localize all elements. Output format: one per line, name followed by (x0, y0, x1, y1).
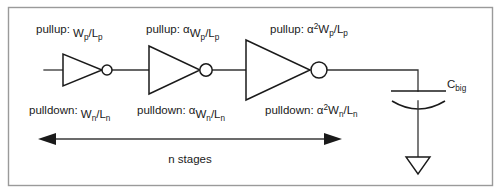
inverter-triangle-1 (63, 54, 102, 86)
load-capacitor (391, 91, 446, 174)
inverter-bubble-1 (102, 65, 112, 75)
inverter-bubble-3 (311, 62, 327, 78)
inverter-bubble-2 (200, 64, 212, 76)
inverter-stage-2 (149, 46, 212, 94)
pulldown-label-stage-3: pulldown: α2Wn/Ln (265, 103, 358, 119)
load-capacitor-label: Cbig (447, 78, 467, 93)
n-stages-span-arrow (38, 133, 342, 145)
inverter-triangle-2 (149, 46, 200, 94)
pullup-label-stage-1: pullup: Wp/Lp (36, 23, 103, 42)
wire-stage3-to-load (320, 70, 418, 91)
inverter-stage-1 (63, 54, 112, 86)
ground-triangle-icon (406, 157, 430, 174)
span-arrow-head-right-icon (324, 133, 342, 145)
pulldown-label-stage-2: pulldown: αWn/Ln (137, 104, 225, 123)
span-arrow-head-left-icon (38, 133, 56, 145)
pullup-label-stage-3: pullup: α2Wp/Lp (270, 22, 348, 38)
inverter-triangle-3 (246, 40, 310, 100)
inverter-chain-figure: pullup: Wp/Lp pullup: αWp/Lp pullup: α2W… (0, 0, 502, 194)
pulldown-label-stage-1: pulldown: Wn/Ln (29, 104, 111, 123)
inverter-stage-3 (246, 40, 327, 100)
n-stages-label: n stages (168, 153, 212, 165)
pullup-label-stage-2: pullup: αWp/Lp (146, 23, 220, 42)
